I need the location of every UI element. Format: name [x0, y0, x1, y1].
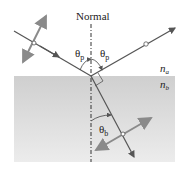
reflected-angle-arc	[91, 59, 102, 70]
medium-a-label: na	[160, 62, 170, 76]
incident-polarization-arrow	[23, 16, 46, 62]
incident-polarization-point	[32, 41, 36, 45]
brewster-angle-diagram: Normal θp θp θb na nb	[0, 0, 185, 171]
incident-ray-arrow	[40, 46, 59, 57]
reflected-angle-label: θp	[100, 47, 109, 62]
refracted-polarization-point	[121, 132, 125, 136]
normal-label: Normal	[76, 10, 110, 22]
reflected-polarization-dot	[144, 42, 148, 46]
incident-angle-label: θp	[75, 47, 84, 62]
